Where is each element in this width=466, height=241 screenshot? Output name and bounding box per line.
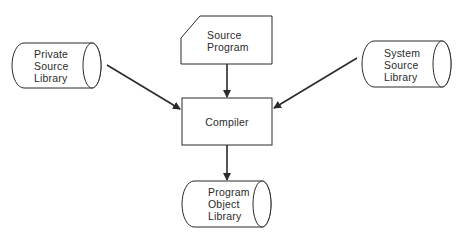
label-line: System [384,47,420,59]
label-line: Source [384,59,420,71]
arrow-system-to-compiler [274,58,357,108]
label-line: Program [207,41,249,53]
label-line: Private [34,48,68,60]
label-line: Library [208,210,250,222]
arrow-private-to-compiler [107,65,180,109]
compiler-label: Compiler [182,116,272,128]
label-line: Source [207,29,249,41]
object-library-label: Program Object Library [208,186,250,222]
label-line: Library [34,72,68,84]
system-library-label: System Source Library [384,47,420,83]
label-line: Library [384,71,420,83]
label-line: Source [34,60,68,72]
source-program-label: Source Program [207,29,249,53]
label-line: Program [208,186,250,198]
label-line: Object [208,198,250,210]
private-library-label: Private Source Library [34,48,68,84]
